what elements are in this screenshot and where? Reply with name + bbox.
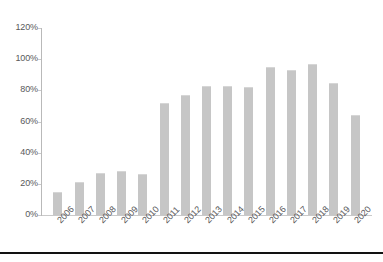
bar [181, 95, 190, 215]
bar [96, 173, 105, 215]
y-axis-tick-label: 40% [0, 148, 38, 157]
bar [287, 70, 296, 215]
y-axis-tick-label: 20% [0, 179, 38, 188]
y-axis-tick-labels: 0%20%40%60%80%100%120% [0, 0, 38, 262]
bar [223, 86, 232, 215]
bar [329, 83, 338, 215]
y-axis-tick-label: 0% [0, 210, 38, 219]
bar [117, 171, 126, 215]
bar-chart-figure: 0%20%40%60%80%100%120% 20062007200820092… [0, 0, 383, 262]
y-axis-tick-label: 80% [0, 85, 38, 94]
y-axis-tick-label: 100% [0, 54, 38, 63]
y-axis-tick-label: 120% [0, 23, 38, 32]
bar [308, 64, 317, 215]
bar [160, 103, 169, 215]
bar [202, 86, 211, 215]
bottom-divider-rule [0, 252, 383, 254]
x-axis-tick-labels: 2006200720082009201020112012201320142015… [42, 216, 372, 256]
bar [351, 115, 360, 215]
bar [266, 67, 275, 215]
bar [138, 174, 147, 215]
bar-series [42, 28, 372, 215]
y-axis-tick-label: 60% [0, 117, 38, 126]
bar [244, 87, 253, 215]
